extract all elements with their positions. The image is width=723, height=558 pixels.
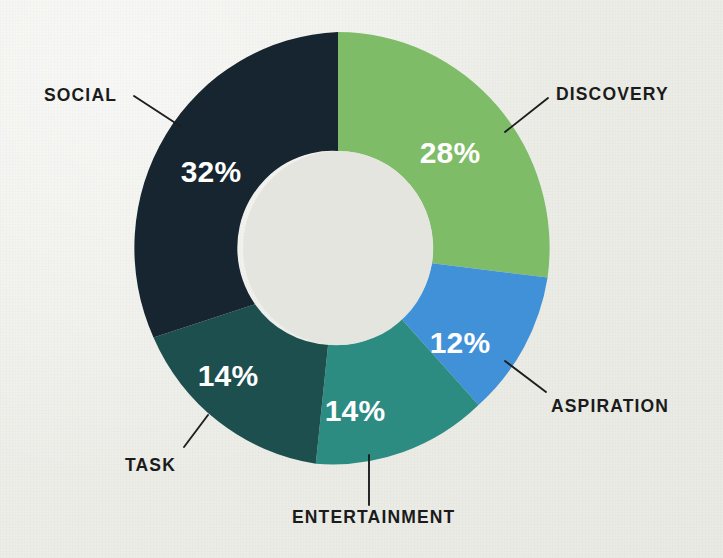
donut-hole: [243, 151, 433, 345]
value-label-aspiration: 12%: [430, 326, 491, 359]
callout-label-social: SOCIAL: [44, 87, 117, 105]
leader-line-task: [184, 415, 208, 447]
callout-label-task: TASK: [125, 457, 176, 475]
value-label-entertainment: 14%: [325, 394, 386, 427]
donut-chart-figure: 28% 12% 14% 14% 32% SOCIAL DISCOVERY ASP…: [0, 0, 723, 558]
callout-label-entertainment: ENTERTAINMENT: [292, 509, 455, 527]
leader-line-aspiration: [505, 361, 546, 392]
leader-line-social: [134, 96, 180, 126]
value-label-discovery: 28%: [420, 136, 481, 169]
value-label-task: 14%: [198, 359, 259, 392]
value-label-social: 32%: [181, 155, 242, 188]
callout-label-discovery: DISCOVERY: [556, 86, 669, 104]
leader-line-discovery: [505, 98, 548, 132]
callout-label-aspiration: ASPIRATION: [551, 398, 669, 416]
